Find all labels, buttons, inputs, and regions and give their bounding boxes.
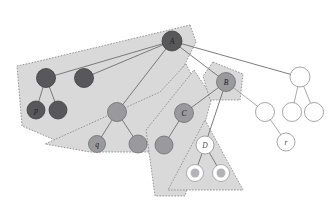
node-p-label: p	[33, 106, 38, 115]
tree-diagram-svg: ApqBCrD	[0, 0, 335, 204]
node-d-leaf-left[interactable]	[187, 165, 204, 182]
node-d-label: D	[201, 141, 208, 150]
node-r[interactable]: r	[277, 133, 295, 151]
node-white-left[interactable]	[256, 103, 275, 122]
node-mid-parent-circle	[108, 103, 127, 122]
node-dark-left-circle	[37, 69, 56, 88]
node-b[interactable]: B	[217, 73, 236, 92]
node-mid-sibling[interactable]	[129, 135, 147, 153]
tree-diagram-figure: ApqBCrD	[0, 0, 335, 204]
node-white-right-circle	[305, 103, 324, 122]
node-white-mid-circle	[283, 103, 302, 122]
node-q-label: q	[95, 140, 99, 149]
node-white-mid[interactable]	[283, 103, 302, 122]
node-dark-sibling-circle	[49, 101, 67, 119]
node-mid-parent[interactable]	[108, 103, 127, 122]
node-p[interactable]: p	[27, 101, 45, 119]
node-a[interactable]: A	[162, 31, 182, 51]
node-d[interactable]: D	[196, 136, 214, 154]
node-mid-sibling-circle	[129, 135, 147, 153]
node-r-label: r	[285, 138, 288, 147]
node-c[interactable]: C	[175, 104, 194, 123]
node-white-right[interactable]	[305, 103, 324, 122]
node-dark-mid[interactable]	[75, 69, 94, 88]
node-white-left-circle	[256, 103, 275, 122]
node-q[interactable]: q	[89, 136, 106, 153]
node-dark-sibling[interactable]	[49, 101, 67, 119]
node-d-leaf-right-inner-dot	[217, 169, 226, 178]
node-white-top-circle	[290, 67, 310, 87]
node-d-leaf-right[interactable]	[213, 165, 230, 182]
node-b-label: B	[224, 78, 229, 87]
node-dark-left[interactable]	[37, 69, 56, 88]
node-a-label: A	[169, 37, 175, 46]
node-dark-mid-circle	[75, 69, 94, 88]
node-c-leaf[interactable]	[155, 136, 173, 154]
node-d-leaf-left-inner-dot	[191, 169, 200, 178]
node-white-top[interactable]	[290, 67, 310, 87]
node-c-leaf-circle	[155, 136, 173, 154]
